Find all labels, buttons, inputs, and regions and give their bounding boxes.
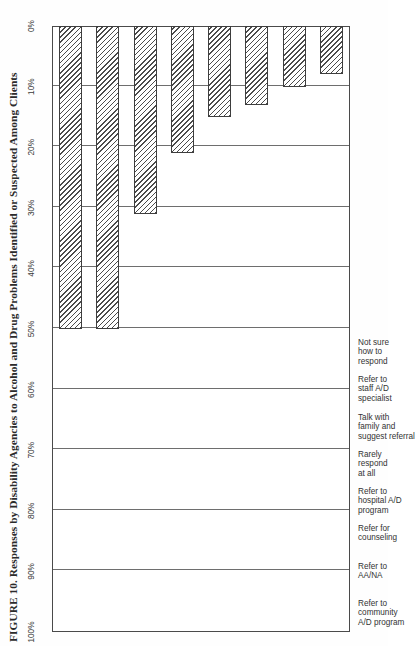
category-label-line: community (358, 608, 419, 617)
category-label-line: how to (358, 347, 419, 356)
bar-slot (276, 26, 313, 632)
category-label-line: Refer to (358, 562, 419, 571)
category-label-line: Not sure (358, 338, 419, 347)
value-tick-label: 0% (26, 20, 36, 32)
category-label: Refer toAA/NA (358, 562, 419, 581)
value-tick-label: 60% (26, 381, 36, 398)
category-label-line: specialist (358, 394, 419, 403)
category-label-line: respond (358, 357, 419, 366)
category-label-line: respond (358, 459, 419, 468)
category-label: Rarelyrespondat all (358, 450, 419, 478)
category-label-line: AA/NA (358, 571, 419, 580)
bar (283, 26, 306, 87)
bar (245, 26, 268, 105)
page-title: FIGURE 10. Responses by Disability Agenc… (0, 0, 26, 646)
bar (208, 26, 231, 117)
category-label-line: A/D program (358, 618, 419, 627)
category-label-line: Refer to (358, 487, 419, 496)
category-label-line: Talk with (358, 413, 419, 422)
bar (134, 26, 157, 214)
category-label-line: Refer to (358, 599, 419, 608)
category-label-line: program (358, 506, 419, 515)
rotated-chart-container: 100%90%80%70%60%50%40%30%20%10%0% Refer … (26, 0, 376, 632)
bar-slot (201, 26, 238, 632)
bar-slot (89, 26, 126, 632)
category-label: Refer forcounseling (358, 524, 419, 543)
value-tick-label: 40% (26, 260, 36, 277)
category-label-line: family and (358, 422, 419, 431)
category-label-line: at all (358, 469, 419, 478)
category-label-line: counseling (358, 534, 419, 543)
value-tick-label: 100% (26, 621, 36, 642)
bar (96, 26, 119, 329)
bar-slot (313, 26, 350, 632)
bar-chart: 100%90%80%70%60%50%40%30%20%10%0% Refer … (26, 0, 376, 632)
value-axis: 100%90%80%70%60%50%40%30%20%10%0% (26, 26, 52, 632)
bar (59, 26, 82, 329)
value-tick-label: 50% (26, 321, 36, 338)
bar-slot (238, 26, 275, 632)
category-label: Refer tostaff A/Dspecialist (358, 375, 419, 403)
bar-slot (127, 26, 164, 632)
value-tick-label: 80% (26, 503, 36, 520)
category-label: Refer tocommunityA/D program (358, 599, 419, 627)
bar-series (52, 26, 350, 632)
value-tick-label: 70% (26, 442, 36, 459)
bar (320, 26, 343, 74)
category-label-line: hospital A/D (358, 496, 419, 505)
category-label-line: Rarely (358, 450, 419, 459)
category-axis: Refer tocommunityA/D programRefer toAA/N… (352, 26, 376, 632)
category-label: Not surehow torespond (358, 338, 419, 366)
category-label-line: suggest referral (358, 431, 419, 440)
category-label: Talk withfamily andsuggest referral (358, 413, 419, 441)
bar-slot (164, 26, 201, 632)
value-tick-label: 30% (26, 200, 36, 217)
value-tick-label: 20% (26, 139, 36, 156)
value-tick-label: 10% (26, 78, 36, 95)
value-tick-label: 90% (26, 563, 36, 580)
bar-slot (52, 26, 89, 632)
category-label: Refer tohospital A/Dprogram (358, 487, 419, 515)
bar (171, 26, 194, 153)
